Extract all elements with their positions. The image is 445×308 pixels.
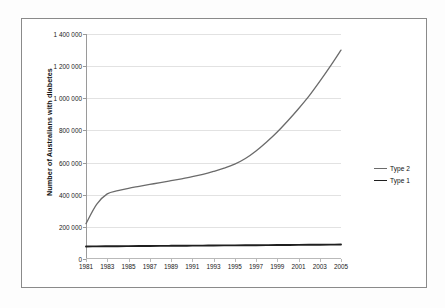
y-tick-label: 1 000 000 — [54, 95, 82, 102]
x-tick-label: 1997 — [249, 263, 263, 270]
x-tick-label: 1993 — [206, 263, 220, 270]
x-tick-mark — [214, 259, 215, 262]
x-tick-mark — [171, 259, 172, 262]
x-tick-mark — [256, 259, 257, 262]
chart-frame: Number of Australians with diabetes 0200… — [21, 18, 427, 288]
legend-item[interactable]: Type 2 — [374, 162, 440, 174]
x-tick-mark — [235, 259, 236, 262]
plot-area: 0200 000400 000600 000800 0001 000 0001 … — [86, 34, 341, 259]
x-tick-label: 1989 — [164, 263, 178, 270]
x-tick-mark — [86, 259, 87, 262]
legend-item[interactable]: Type 1 — [374, 174, 440, 186]
x-tick-label: 2001 — [291, 263, 305, 270]
x-tick-label: 2003 — [313, 263, 327, 270]
y-tick-label: 400 000 — [59, 191, 82, 198]
chart-figure: Number of Australians with diabetes 0200… — [0, 0, 445, 308]
x-tick-label: 1995 — [228, 263, 242, 270]
series-line-type-1 — [86, 245, 341, 247]
y-tick-label: 800 000 — [59, 127, 82, 134]
legend-swatch — [374, 168, 387, 169]
y-tick-label: 600 000 — [59, 159, 82, 166]
legend-swatch — [374, 180, 387, 181]
x-tick-label: 1985 — [121, 263, 135, 270]
legend-label: Type 2 — [390, 165, 410, 172]
y-tick-label: 1 400 000 — [54, 31, 82, 38]
x-tick-mark — [299, 259, 300, 262]
x-tick-mark — [192, 259, 193, 262]
x-tick-mark — [129, 259, 130, 262]
series-lines — [86, 34, 341, 259]
x-tick-label: 2005 — [334, 263, 348, 270]
y-tick-label: 1 200 000 — [54, 63, 82, 70]
x-tick-mark — [320, 259, 321, 262]
x-tick-mark — [150, 259, 151, 262]
x-tick-mark — [277, 259, 278, 262]
x-tick-label: 1981 — [79, 263, 93, 270]
x-tick-label: 1983 — [100, 263, 114, 270]
x-tick-label: 1991 — [185, 263, 199, 270]
series-line-type-2 — [86, 50, 341, 224]
x-tick-mark — [341, 259, 342, 262]
chart-legend: Type 2Type 1 — [374, 162, 440, 186]
y-tick-label: 200 000 — [59, 223, 82, 230]
legend-label: Type 1 — [390, 177, 410, 184]
x-tick-label: 1987 — [143, 263, 157, 270]
x-tick-mark — [107, 259, 108, 262]
y-tick-label: 0 — [78, 256, 82, 263]
x-tick-label: 1999 — [270, 263, 284, 270]
